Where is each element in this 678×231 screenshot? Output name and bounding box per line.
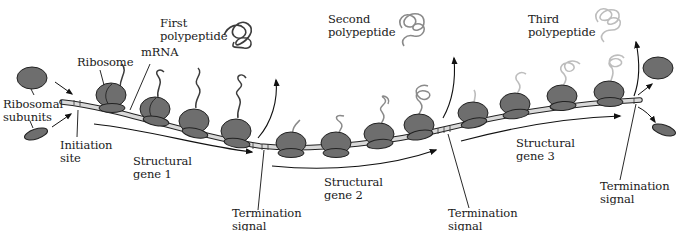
ribosome xyxy=(321,115,351,157)
arrow-release-third-polypeptide xyxy=(634,42,639,96)
ribosome xyxy=(140,70,170,128)
second-polypeptide-coil xyxy=(400,14,424,46)
leader-termination-signal-1 xyxy=(258,150,264,210)
polycistronic-translation-diagram: Ribosomal subunits Ribosome mRNA Initiat… xyxy=(0,0,678,231)
ribosomes-gene-3 xyxy=(458,55,624,130)
leader-ribosomal-subunits-top xyxy=(31,89,34,95)
arrow-release-second-polypeptide xyxy=(443,58,455,118)
ribosomal-subunit-small-right xyxy=(651,122,677,139)
label-second-polypeptide: Second polypeptide xyxy=(328,13,395,39)
ribosome xyxy=(221,75,251,149)
label-termination-signal-1: Termination signal xyxy=(232,207,301,231)
ribosome xyxy=(594,55,624,106)
label-structural-gene-3: Structural gene 3 xyxy=(516,137,575,163)
label-mrna: mRNA xyxy=(141,46,179,59)
ribosome xyxy=(547,61,580,111)
ribosome xyxy=(404,85,434,141)
label-structural-gene-2: Structural gene 2 xyxy=(324,176,383,202)
ribosome xyxy=(179,68,209,140)
label-third-polypeptide: Third polypeptide xyxy=(528,13,595,39)
ribosomal-subunit-large-left xyxy=(17,67,47,89)
label-termination-signal-2: Termination signal xyxy=(448,207,517,231)
arrow-release-small xyxy=(638,107,655,122)
arrow-subunit-large xyxy=(55,82,72,94)
ribosomes-gene-1 xyxy=(96,64,251,149)
label-termination-signal-3: Termination signal xyxy=(600,180,669,206)
leader-initiation-site xyxy=(77,110,78,137)
arrow-release-first-polypeptide xyxy=(258,80,276,138)
first-polypeptide-coil xyxy=(224,22,251,48)
ribosomal-subunit-large-right xyxy=(643,57,673,79)
leader-termination-signal-2 xyxy=(448,134,469,208)
label-ribosomal-subunits: Ribosomal subunits xyxy=(3,98,63,124)
ribosome xyxy=(500,73,530,121)
label-structural-gene-1: Structural gene 1 xyxy=(133,155,192,181)
label-ribosome: Ribosome xyxy=(77,56,133,69)
leader-ribosome xyxy=(100,70,104,85)
leader-termination-signal-3 xyxy=(620,104,636,180)
label-initiation-site: Initiation site xyxy=(60,139,112,165)
third-polypeptide-coil xyxy=(596,9,620,42)
arrow-release-large xyxy=(638,84,652,95)
ribosome xyxy=(276,120,306,158)
ribosome xyxy=(458,90,488,130)
ribosomal-subunit-small-left xyxy=(23,126,49,143)
ribosome xyxy=(364,96,394,150)
label-first-polypeptide: First polypeptide xyxy=(160,17,227,43)
